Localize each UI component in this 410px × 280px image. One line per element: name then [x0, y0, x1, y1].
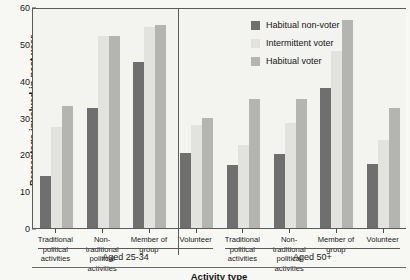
legend-label: Habitual non-voter: [266, 20, 340, 30]
bar: [87, 108, 98, 228]
x-axis-title: Activity type: [32, 271, 406, 280]
legend-item: Intermittent voter: [251, 38, 340, 48]
category-tick: [336, 229, 337, 233]
bar: [389, 108, 400, 228]
panel-divider: [178, 8, 179, 255]
bar-group: [367, 9, 401, 228]
category-label: Volunteer: [347, 235, 410, 245]
category-tick: [383, 229, 384, 233]
bar: [238, 145, 249, 228]
bar: [378, 140, 389, 228]
bar-group: [39, 9, 73, 228]
y-tick-label-50: 50: [0, 40, 30, 50]
bar-group: [180, 9, 214, 228]
category-tick: [149, 229, 150, 233]
panel-bracket: [38, 248, 213, 249]
category-tick: [289, 229, 290, 233]
bar: [249, 99, 260, 228]
y-tick-label-10: 10: [0, 187, 30, 197]
bar: [191, 125, 202, 228]
bar-group: [86, 9, 120, 228]
bar: [109, 36, 120, 228]
y-tick-label-30: 30: [0, 114, 30, 124]
bar: [320, 88, 331, 228]
category-tick: [55, 229, 56, 233]
bar: [367, 164, 378, 228]
category-label-line: Volunteer: [347, 235, 410, 245]
legend-label: Intermittent voter: [266, 38, 334, 48]
bar-chart: Percentage involved in past year 0102030…: [0, 0, 410, 280]
legend-item: Habitual voter: [251, 56, 340, 66]
bar: [155, 25, 166, 228]
bar: [98, 36, 109, 228]
y-tick-label-20: 20: [0, 150, 30, 160]
bar: [285, 123, 296, 228]
y-tick-label-0: 0: [0, 224, 30, 234]
legend: Habitual non-voterIntermittent voterHabi…: [251, 20, 340, 66]
legend-item: Habitual non-voter: [251, 20, 340, 30]
bar: [274, 154, 285, 228]
bar: [62, 106, 73, 228]
bar: [331, 51, 342, 228]
panel-label: Aged 25-34: [32, 252, 219, 262]
legend-label: Habitual voter: [266, 56, 322, 66]
panel-bracket: [225, 248, 400, 249]
category-tick: [242, 229, 243, 233]
bar: [180, 153, 191, 229]
bar: [342, 20, 353, 228]
y-tick-label-60: 60: [0, 3, 30, 13]
legend-swatch-icon: [251, 21, 260, 30]
plot-area: Habitual non-voterIntermittent voterHabi…: [32, 8, 406, 229]
category-tick: [196, 229, 197, 233]
bar: [40, 176, 51, 228]
bar: [51, 127, 62, 228]
legend-swatch-icon: [251, 39, 260, 48]
y-tick-label-40: 40: [0, 77, 30, 87]
bar: [202, 118, 213, 229]
legend-swatch-icon: [251, 57, 260, 66]
panel-label: Aged 50+: [219, 252, 406, 262]
bar-group: [133, 9, 167, 228]
bar: [227, 165, 238, 228]
bar: [296, 99, 307, 228]
bottom-rule: [32, 267, 406, 268]
bar: [144, 27, 155, 228]
category-tick: [102, 229, 103, 233]
bar: [133, 62, 144, 228]
